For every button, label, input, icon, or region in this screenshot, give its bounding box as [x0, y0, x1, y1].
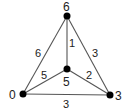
- edge-left-right-weight: 3: [63, 98, 69, 109]
- edge-top-right-weight: 3: [92, 47, 98, 59]
- edge-center-right-weight: 2: [86, 69, 92, 81]
- edge-top-left-weight: 6: [35, 47, 41, 59]
- edge-left-right: [23, 94, 110, 95]
- weighted-graph: 6 5 0 3 6 3 1 5 2 3: [0, 0, 126, 109]
- edge-center-left-weight: 5: [41, 69, 47, 81]
- node-left-label: 0: [9, 88, 16, 102]
- node-center: [64, 66, 71, 73]
- node-top-label: 6: [63, 0, 70, 14]
- node-center-label: 5: [63, 75, 70, 89]
- edge-top-center-weight: 1: [69, 37, 75, 49]
- node-left: [20, 91, 27, 98]
- edge-top-left: [23, 16, 67, 94]
- edge-top-right: [67, 16, 110, 95]
- node-right: [107, 92, 114, 99]
- node-right-label: 3: [115, 89, 122, 103]
